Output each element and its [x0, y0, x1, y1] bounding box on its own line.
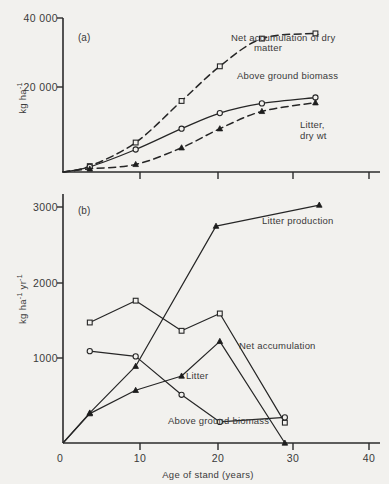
series-line-3	[90, 351, 285, 422]
panel-a-chart: kg ha-1 40 000 20 000 (a) Net accumulati…	[0, 0, 389, 195]
panel-b-xtick-label-10: 10	[134, 452, 146, 464]
panel-b-ytick-label-1000: 1000	[33, 352, 58, 364]
panel-a-series-label-above-ground-biomass: Above ground biomass	[237, 70, 338, 81]
data-point	[217, 64, 222, 69]
series-line-2	[63, 341, 285, 443]
data-point	[133, 140, 138, 145]
figure-container: kg ha-1 40 000 20 000 (a) Net accumulati…	[0, 0, 389, 484]
data-point	[217, 338, 223, 343]
data-point	[259, 101, 264, 106]
panel-b-xtick-label-20: 20	[212, 452, 224, 464]
data-point	[133, 298, 138, 303]
panel-a-ytick-label-20000: 20 000	[23, 81, 58, 93]
data-point	[316, 202, 322, 207]
svg-text:kg ha-1 yr-1: kg ha-1 yr-1	[16, 274, 28, 324]
panel-b-chart: kg ha-1 yr-1 3000 2000 1000 0 10 20 30 4…	[0, 194, 389, 484]
panel-b-y-axis-title-base1: kg ha	[17, 299, 28, 324]
data-point	[179, 145, 185, 150]
panel-b-y-axis-title-base2: yr	[17, 281, 28, 290]
data-point	[133, 354, 138, 359]
panel-b-series-group	[63, 202, 322, 445]
panel-b-ytick-label-2000: 2000	[33, 277, 58, 289]
data-point	[179, 328, 184, 333]
data-point	[217, 311, 222, 316]
panel-b-series-label-litter: Litter	[186, 370, 208, 381]
panel-a-series-label-litter: Litter,	[300, 119, 325, 130]
panel-b-series-label-litter-production: Litter production	[262, 215, 334, 226]
panel-b-series-label-above-ground-biomass: Above ground biomass	[168, 415, 269, 426]
panel-a-y-axis-title-exponent: -1	[16, 82, 23, 89]
panel-b-xtick-label-0: 0	[57, 452, 63, 464]
series-line-0	[63, 33, 315, 172]
data-point	[133, 147, 138, 152]
data-point	[87, 320, 92, 325]
panel-a-label: (a)	[78, 32, 90, 43]
panel-a-series-label-net-accumulation: Net accumulation of dry	[231, 32, 335, 43]
data-point	[313, 100, 319, 105]
panel-a-series-label-litter-line2: dry wt	[300, 130, 327, 141]
series-line-1	[90, 301, 285, 423]
panel-a-ytick-label-40000: 40 000	[23, 12, 58, 24]
panel-b-y-axis-title-exp1: -1	[16, 292, 23, 299]
panel-b-label: (b)	[78, 205, 90, 216]
panel-b-y-axis-title-exp2: -1	[16, 274, 23, 281]
data-point	[179, 126, 184, 131]
panel-b-y-axis-title: kg ha-1 yr-1	[16, 274, 28, 324]
panel-b-x-axis-title: Age of stand (years)	[162, 469, 254, 480]
panel-b-xtick-label-30: 30	[287, 452, 299, 464]
data-point	[217, 110, 222, 115]
data-point	[87, 349, 92, 354]
data-point	[282, 420, 287, 425]
data-point	[179, 392, 184, 397]
panel-a-series-label-net-accumulation-line2: matter	[254, 42, 282, 53]
data-point	[282, 415, 287, 420]
panel-b-ytick-label-3000: 3000	[33, 201, 58, 213]
panel-b-series-label-net-accumulation: Net accumulation	[239, 340, 316, 351]
data-point	[179, 99, 184, 104]
panel-b-xtick-label-40: 40	[363, 452, 375, 464]
